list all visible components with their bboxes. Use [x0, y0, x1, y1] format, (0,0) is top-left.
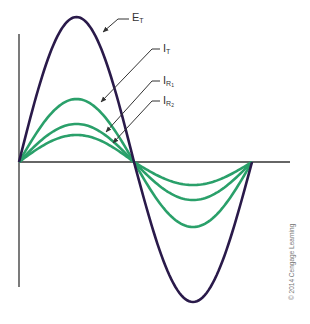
label-i-t: IT [163, 43, 170, 55]
label-i-r2: IR2 [163, 95, 174, 108]
label-sub: R1 [166, 80, 174, 87]
label-sub: T [166, 48, 170, 55]
label-e-t: ET [132, 12, 144, 24]
label-subsub: 1 [171, 82, 174, 88]
copyright-credit: © 2014 Cengage Learning [288, 224, 295, 300]
label-sub: R2 [166, 100, 174, 107]
wave-e-t [19, 17, 252, 302]
wave-i-r2 [19, 135, 252, 185]
label-sub: T [139, 17, 143, 24]
leader-e-t [103, 19, 129, 32]
waveform-svg [0, 0, 310, 324]
label-subsub: 2 [171, 102, 174, 108]
label-i-r1: IR1 [163, 75, 174, 88]
waveform-diagram: ET IT IR1 IR2 © 2014 Cengage Learning [0, 0, 310, 324]
